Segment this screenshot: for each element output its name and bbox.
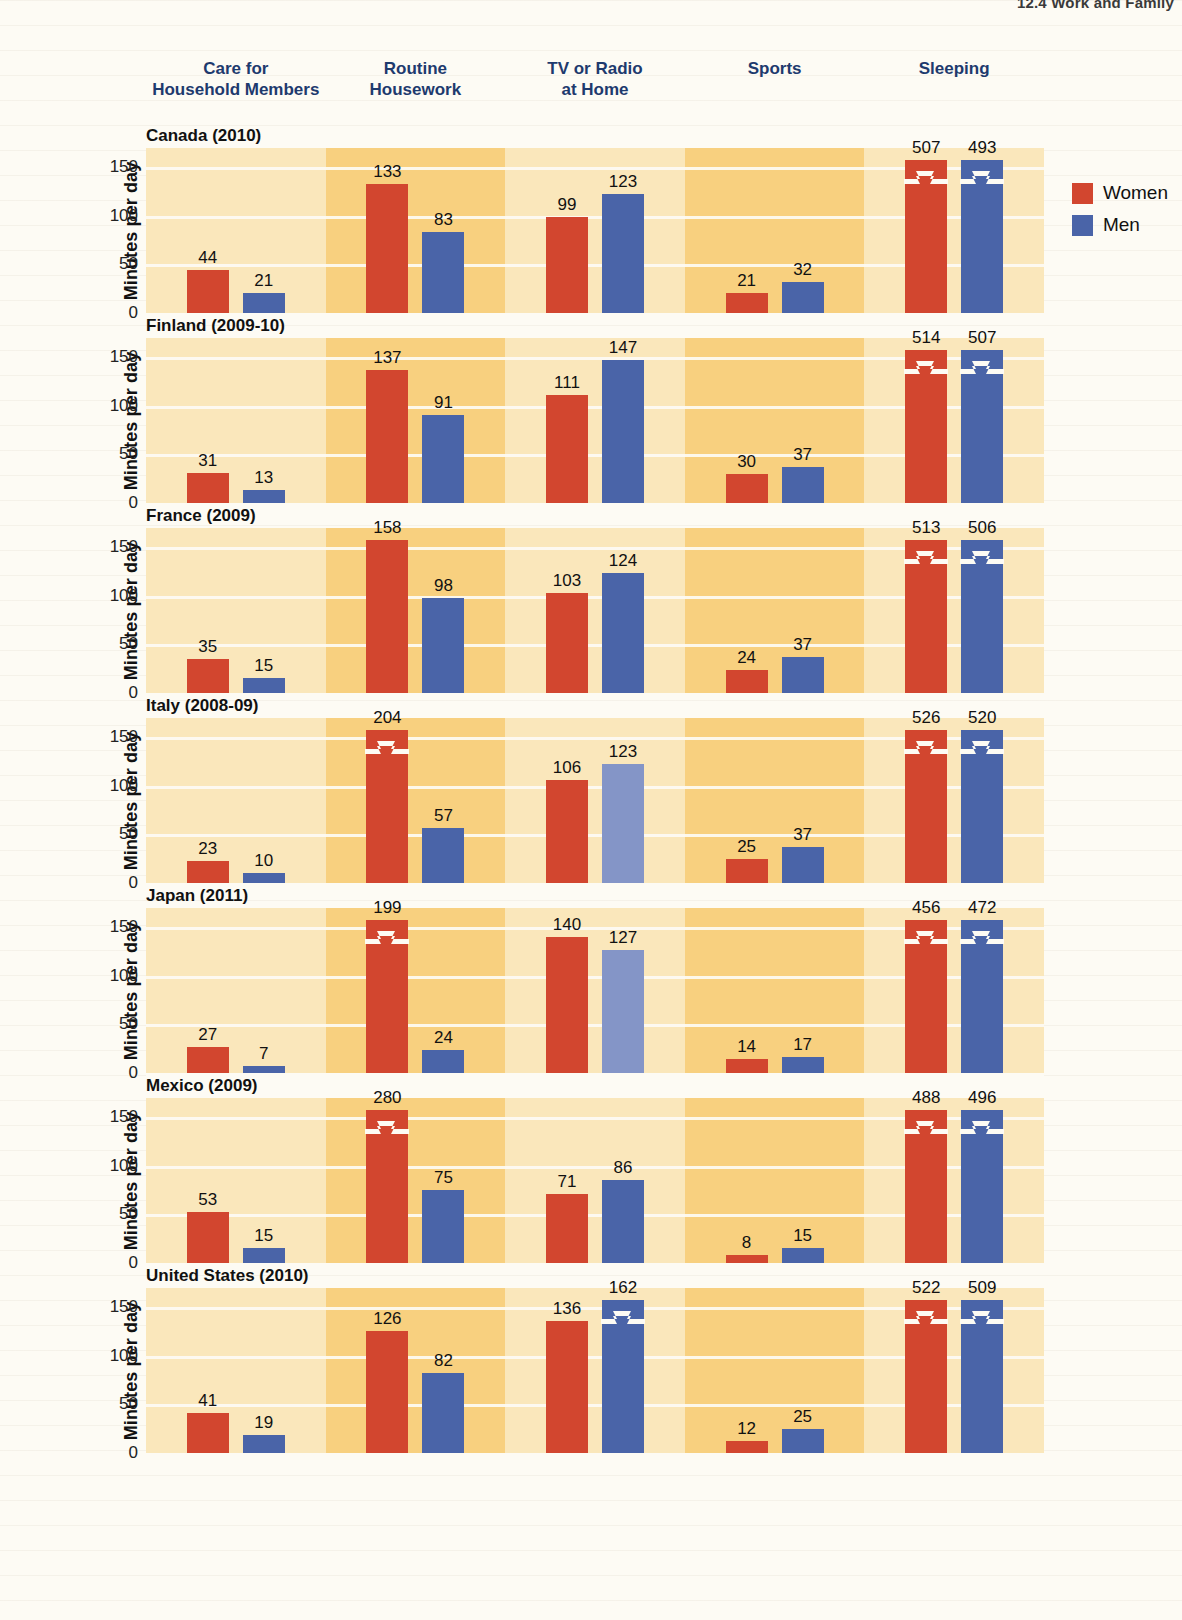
bar-value-label: 526 <box>912 708 940 728</box>
bar-italy-2008-09-sleeping-women[interactable]: 526 <box>905 730 947 883</box>
bar-italy-2008-09-sports-women[interactable]: 25 <box>726 859 768 883</box>
bar-united-states-2010-sports-men[interactable]: 25 <box>782 1429 824 1453</box>
bar-united-states-2010-care-for-household-members-women[interactable]: 41 <box>187 1413 229 1453</box>
bar-mexico-2009-care-for-household-members-women[interactable]: 53 <box>187 1212 229 1263</box>
bar-canada-2010-routine-housework-men[interactable]: 83 <box>422 232 464 313</box>
bar-fill <box>602 1180 644 1263</box>
running-head: 12.4 Work and Family <box>1017 0 1174 11</box>
column-band <box>505 528 685 693</box>
axis-break-icon <box>960 928 1004 944</box>
bar-value-label: 15 <box>793 1226 812 1246</box>
bar-finland-2009-10-sleeping-women[interactable]: 514 <box>905 350 947 503</box>
axis-break-icon <box>904 928 948 944</box>
bar-japan-2011-sleeping-women[interactable]: 456 <box>905 920 947 1073</box>
bar-canada-2010-routine-housework-women[interactable]: 133 <box>366 184 408 313</box>
bar-value-label: 35 <box>198 637 217 657</box>
bar-fill <box>726 293 768 313</box>
bar-united-states-2010-sleeping-women[interactable]: 522 <box>905 1300 947 1453</box>
bar-france-2009-care-for-household-members-men[interactable]: 15 <box>243 678 285 693</box>
bar-japan-2011-tv-or-radio-at-home-men[interactable]: 127 <box>602 950 644 1073</box>
bar-value-label: 509 <box>968 1278 996 1298</box>
column-band <box>685 338 865 503</box>
column-band <box>864 148 1044 313</box>
bar-canada-2010-tv-or-radio-at-home-men[interactable]: 123 <box>602 194 644 313</box>
bar-mexico-2009-sleeping-men[interactable]: 496 <box>961 1110 1003 1263</box>
bar-japan-2011-care-for-household-members-women[interactable]: 27 <box>187 1047 229 1073</box>
bar-mexico-2009-tv-or-radio-at-home-men[interactable]: 86 <box>602 1180 644 1263</box>
plot-area-mexico-2009: 5315280757186815488496 <box>146 1098 1044 1263</box>
bar-france-2009-routine-housework-women[interactable]: 158 <box>366 540 408 693</box>
bar-finland-2009-10-tv-or-radio-at-home-men[interactable]: 147 <box>602 360 644 503</box>
bar-france-2009-sports-women[interactable]: 24 <box>726 670 768 693</box>
bar-value-label: 133 <box>373 162 401 182</box>
bar-italy-2008-09-care-for-household-members-women[interactable]: 23 <box>187 861 229 883</box>
column-band <box>864 338 1044 503</box>
bar-value-label: 507 <box>968 328 996 348</box>
column-band <box>505 718 685 883</box>
bar-canada-2010-sleeping-men[interactable]: 493 <box>961 160 1003 313</box>
bar-japan-2011-care-for-household-members-men[interactable]: 7 <box>243 1066 285 1073</box>
bar-united-states-2010-tv-or-radio-at-home-men[interactable]: 162 <box>602 1300 644 1453</box>
bar-finland-2009-10-sports-men[interactable]: 37 <box>782 467 824 503</box>
bar-united-states-2010-care-for-household-members-men[interactable]: 19 <box>243 1435 285 1453</box>
bar-mexico-2009-routine-housework-women[interactable]: 280 <box>366 1110 408 1263</box>
column-band <box>864 718 1044 883</box>
bar-japan-2011-routine-housework-women[interactable]: 199 <box>366 920 408 1073</box>
bar-canada-2010-sports-men[interactable]: 32 <box>782 282 824 313</box>
bar-italy-2008-09-tv-or-radio-at-home-men[interactable]: 123 <box>602 764 644 883</box>
legend-item-women[interactable]: Women <box>1072 182 1168 204</box>
bar-mexico-2009-sports-men[interactable]: 15 <box>782 1248 824 1263</box>
bar-finland-2009-10-routine-housework-women[interactable]: 137 <box>366 370 408 503</box>
bar-value-label: 514 <box>912 328 940 348</box>
bar-mexico-2009-care-for-household-members-men[interactable]: 15 <box>243 1248 285 1263</box>
bar-finland-2009-10-sports-women[interactable]: 30 <box>726 474 768 503</box>
bar-united-states-2010-tv-or-radio-at-home-women[interactable]: 136 <box>546 1321 588 1453</box>
bar-france-2009-sleeping-women[interactable]: 513 <box>905 540 947 693</box>
bar-italy-2008-09-care-for-household-members-men[interactable]: 10 <box>243 873 285 883</box>
bar-italy-2008-09-sleeping-men[interactable]: 520 <box>961 730 1003 883</box>
bar-value-label: 472 <box>968 898 996 918</box>
bar-france-2009-routine-housework-men[interactable]: 98 <box>422 598 464 693</box>
bar-japan-2011-sports-men[interactable]: 17 <box>782 1057 824 1074</box>
column-band <box>326 528 506 693</box>
bar-france-2009-sports-men[interactable]: 37 <box>782 657 824 693</box>
bar-finland-2009-10-sleeping-men[interactable]: 507 <box>961 350 1003 503</box>
bar-italy-2008-09-routine-housework-men[interactable]: 57 <box>422 828 464 883</box>
bar-united-states-2010-routine-housework-women[interactable]: 126 <box>366 1331 408 1453</box>
bar-france-2009-sleeping-men[interactable]: 506 <box>961 540 1003 693</box>
bar-finland-2009-10-care-for-household-members-women[interactable]: 31 <box>187 473 229 503</box>
bar-japan-2011-sports-women[interactable]: 14 <box>726 1059 768 1073</box>
axis-break-icon <box>365 738 409 754</box>
bar-fill <box>602 194 644 313</box>
bar-japan-2011-tv-or-radio-at-home-women[interactable]: 140 <box>546 937 588 1073</box>
bar-canada-2010-care-for-household-members-women[interactable]: 44 <box>187 270 229 313</box>
bar-finland-2009-10-care-for-household-members-men[interactable]: 13 <box>243 490 285 503</box>
panel-title-mexico-2009: Mexico (2009) <box>146 1076 258 1096</box>
bar-finland-2009-10-routine-housework-men[interactable]: 91 <box>422 415 464 503</box>
bar-italy-2008-09-routine-housework-women[interactable]: 204 <box>366 730 408 883</box>
bar-united-states-2010-routine-housework-men[interactable]: 82 <box>422 1373 464 1453</box>
bar-canada-2010-tv-or-radio-at-home-women[interactable]: 99 <box>546 217 588 313</box>
bar-canada-2010-care-for-household-members-men[interactable]: 21 <box>243 293 285 313</box>
y-tick-50: 50 <box>92 1014 138 1034</box>
bar-france-2009-care-for-household-members-women[interactable]: 35 <box>187 659 229 693</box>
bar-mexico-2009-sleeping-women[interactable]: 488 <box>905 1110 947 1263</box>
bar-united-states-2010-sports-women[interactable]: 12 <box>726 1441 768 1453</box>
bar-united-states-2010-sleeping-men[interactable]: 509 <box>961 1300 1003 1453</box>
bar-finland-2009-10-tv-or-radio-at-home-women[interactable]: 111 <box>546 395 588 503</box>
bar-japan-2011-routine-housework-men[interactable]: 24 <box>422 1050 464 1073</box>
bar-mexico-2009-tv-or-radio-at-home-women[interactable]: 71 <box>546 1194 588 1263</box>
bar-japan-2011-sleeping-men[interactable]: 472 <box>961 920 1003 1073</box>
bar-mexico-2009-sports-women[interactable]: 8 <box>726 1255 768 1263</box>
bar-france-2009-tv-or-radio-at-home-men[interactable]: 124 <box>602 573 644 693</box>
bar-value-label: 17 <box>793 1035 812 1055</box>
bar-italy-2008-09-tv-or-radio-at-home-women[interactable]: 106 <box>546 780 588 883</box>
bar-mexico-2009-routine-housework-men[interactable]: 75 <box>422 1190 464 1263</box>
bar-fill <box>243 1248 285 1263</box>
bar-canada-2010-sports-women[interactable]: 21 <box>726 293 768 313</box>
bar-value-label: 21 <box>737 271 756 291</box>
bar-france-2009-tv-or-radio-at-home-women[interactable]: 103 <box>546 593 588 693</box>
bar-italy-2008-09-sports-men[interactable]: 37 <box>782 847 824 883</box>
bar-canada-2010-sleeping-women[interactable]: 507 <box>905 160 947 313</box>
legend-item-men[interactable]: Men <box>1072 214 1168 236</box>
